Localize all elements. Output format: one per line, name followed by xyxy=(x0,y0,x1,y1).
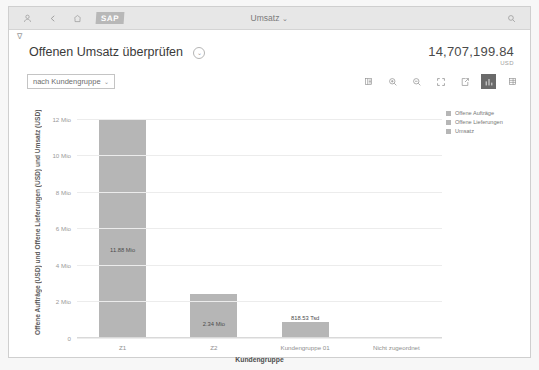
page-title: Offenen Umsatz überprüfen xyxy=(29,45,183,59)
gridline xyxy=(77,301,442,302)
back-icon[interactable] xyxy=(46,12,59,25)
chart-toolbar: nach Kundengruppe ⌄ xyxy=(9,70,530,94)
export-icon[interactable] xyxy=(457,74,472,89)
bar-value-label: 2.34 Mio xyxy=(203,321,225,327)
bar-slot: 818.53 Tsd xyxy=(260,108,351,337)
y-axis-tick-label: 6 Mio xyxy=(56,225,71,232)
shell-bar-right-actions xyxy=(505,7,518,29)
chart-legend: Offene AufträgeOffene LieferungenUmsatz xyxy=(446,110,520,137)
bar-chart-icon[interactable] xyxy=(481,74,496,89)
fullscreen-icon[interactable] xyxy=(433,74,448,89)
gridline xyxy=(77,228,442,229)
bar-group: 11.88 Mio2.34 Mio818.53 Tsd xyxy=(77,108,442,337)
zoom-in-icon[interactable] xyxy=(385,74,400,89)
legend-color-swatch xyxy=(446,120,451,125)
shell-bar-left-actions: SAP xyxy=(9,12,124,25)
page-title-group: Offenen Umsatz überprüfen ⌄ xyxy=(29,42,205,60)
legend-label: Offene Aufträge xyxy=(455,110,494,116)
chevron-down-icon[interactable]: ⌄ xyxy=(193,47,205,59)
gridline xyxy=(77,119,442,120)
y-axis-tick-label: 2 Mio xyxy=(56,298,71,305)
home-icon[interactable] xyxy=(71,12,84,25)
gridline xyxy=(77,155,442,156)
kpi-value: 14,707,199.84 xyxy=(428,44,514,59)
legend-color-swatch xyxy=(446,111,451,116)
shell-bar: SAP Umsatz⌄ xyxy=(9,7,530,30)
page-title-row: Offenen Umsatz überprüfen ⌄ 14,707,199.8… xyxy=(21,42,518,66)
search-icon[interactable] xyxy=(505,12,518,25)
y-axis-tick-label: 4 Mio xyxy=(56,261,71,268)
chart-container: Offene Aufträge (USD) und Offene Lieferu… xyxy=(9,94,530,352)
zoom-out-icon[interactable] xyxy=(409,74,424,89)
bar-value-label: 818.53 Tsd xyxy=(291,315,319,321)
bar-slot: 11.88 Mio xyxy=(77,108,168,337)
legend-label: Offene Lieferungen xyxy=(455,119,503,125)
x-axis-tick-label: Nicht zugeordnet xyxy=(351,344,442,351)
bar[interactable]: 818.53 Tsd xyxy=(282,322,329,337)
dimension-select-value: nach Kundengruppe xyxy=(33,77,101,86)
filter-icon[interactable]: ∇ xyxy=(17,32,22,41)
y-axis-tick-label: 12 Mio xyxy=(52,115,71,122)
y-axis-title: Offene Aufträge (USD) und Offene Lieferu… xyxy=(31,106,43,338)
y-axis-tick-label: 8 Mio xyxy=(56,188,71,195)
gridline xyxy=(77,192,442,193)
table-view-icon[interactable] xyxy=(505,74,520,89)
x-axis-tick-label: Z2 xyxy=(168,344,259,351)
legend-item[interactable]: Umsatz xyxy=(446,128,520,134)
chevron-down-icon: ⌄ xyxy=(104,78,109,85)
kpi-unit: USD xyxy=(428,60,514,66)
x-axis-tick-labels: Z1Z2Kundengruppe 01Nicht zugeordnet xyxy=(77,344,442,351)
legend-item[interactable]: Offene Lieferungen xyxy=(446,119,520,125)
bar-slot xyxy=(351,108,442,337)
x-axis-tick-label: Z1 xyxy=(77,344,168,351)
dimension-select[interactable]: nach Kundengruppe ⌄ xyxy=(27,74,115,89)
legend-item[interactable]: Offene Aufträge xyxy=(446,110,520,116)
chevron-down-icon: ⌄ xyxy=(282,15,288,22)
legend-icon[interactable] xyxy=(361,74,376,89)
shell-bar-title: Umsatz xyxy=(251,13,280,23)
app-window: SAP Umsatz⌄ ∇ Offenen Umsatz überprüfen … xyxy=(8,6,531,358)
x-axis-title: Kundengruppe xyxy=(77,356,442,363)
gridline xyxy=(77,265,442,266)
x-axis-tick-label: Kundengruppe 01 xyxy=(260,344,351,351)
chart-toolbar-actions xyxy=(361,74,520,89)
application-root: SAP Umsatz⌄ ∇ Offenen Umsatz überprüfen … xyxy=(0,0,539,370)
y-axis-tick-label: 0 xyxy=(68,335,71,342)
legend-color-swatch xyxy=(446,129,451,134)
sap-logo: SAP xyxy=(96,12,125,24)
plot-area: 11.88 Mio2.34 Mio818.53 Tsd 02 Mio4 Mio6… xyxy=(77,108,442,338)
bar-slot: 2.34 Mio xyxy=(168,108,259,337)
gridline xyxy=(77,338,442,339)
page-header: ∇ Offenen Umsatz überprüfen ⌄ 14,707,199… xyxy=(9,30,530,70)
y-axis-tick-label: 10 Mio xyxy=(52,152,71,159)
scroll-indicator[interactable] xyxy=(526,124,528,322)
legend-label: Umsatz xyxy=(455,128,474,134)
user-icon[interactable] xyxy=(21,12,34,25)
bar-value-label: 11.88 Mio xyxy=(110,247,135,253)
kpi-total: 14,707,199.84 USD xyxy=(428,44,518,66)
